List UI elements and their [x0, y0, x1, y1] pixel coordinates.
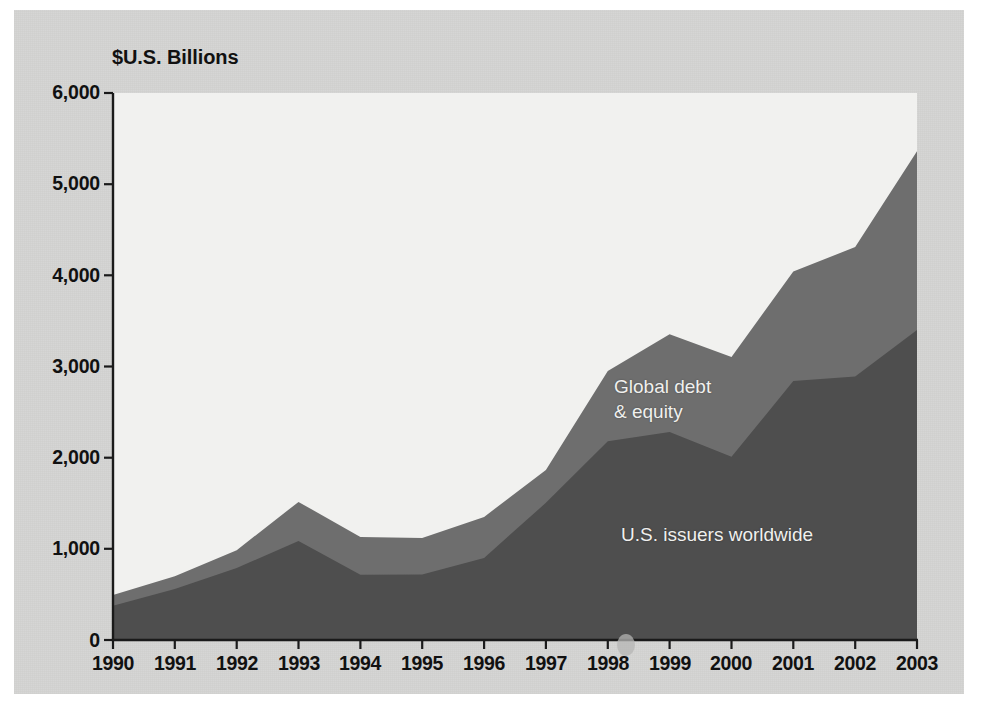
x-tick-label-1993: 1993	[278, 652, 320, 675]
series-annotation-us-issuers-worldwide: U.S. issuers worldwide	[621, 522, 813, 547]
y-axis-tick-labels: 0 1,000 2,000 3,000 4,000 5,000 6,000	[26, 0, 100, 714]
y-axis-title: $U.S. Billions	[112, 46, 238, 69]
area-chart: $U.S. Billions 0 1,000 2,000 3,000 4,000…	[0, 0, 985, 714]
x-axis-ticks	[113, 640, 917, 649]
x-tick-label-2000: 2000	[710, 652, 752, 675]
x-tick-label-1999: 1999	[649, 652, 691, 675]
x-tick-label-1998: 1998	[587, 652, 629, 675]
plot-canvas	[0, 0, 985, 714]
x-tick-label-1990: 1990	[92, 652, 134, 675]
x-tick-label-1991: 1991	[154, 652, 196, 675]
y-axis-ticks	[104, 93, 113, 640]
y-tick-label-5000: 5,000	[26, 172, 100, 195]
x-tick-label-2002: 2002	[834, 652, 876, 675]
y-tick-label-4000: 4,000	[26, 264, 100, 287]
y-tick-label-1000: 1,000	[26, 537, 100, 560]
x-tick-label-1996: 1996	[463, 652, 505, 675]
x-tick-label-1995: 1995	[401, 652, 443, 675]
x-tick-label-2003: 2003	[896, 652, 938, 675]
x-tick-label-1992: 1992	[216, 652, 258, 675]
x-tick-label-1994: 1994	[339, 652, 381, 675]
y-tick-label-0: 0	[26, 629, 100, 652]
x-tick-label-1997: 1997	[525, 652, 567, 675]
y-tick-label-6000: 6,000	[26, 81, 100, 104]
y-tick-label-2000: 2,000	[26, 446, 100, 469]
x-tick-label-2001: 2001	[772, 652, 814, 675]
figure-root: all markets in the world reached record …	[0, 0, 985, 714]
y-tick-label-3000: 3,000	[26, 355, 100, 378]
x-axis-tick-labels: 1990 1991 1992 1993 1994 1995 1996 1997 …	[0, 652, 985, 682]
series-annotation-global-debt-equity: Global debt & equity	[614, 374, 711, 424]
